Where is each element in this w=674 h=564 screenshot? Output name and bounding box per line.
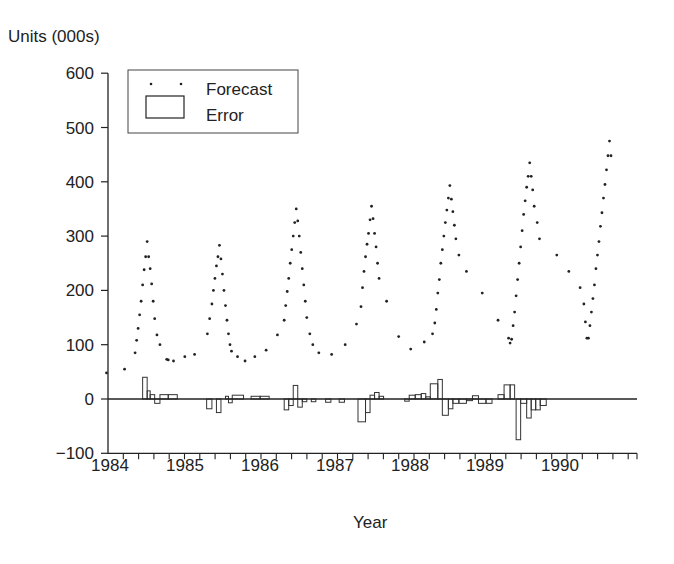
forecast-point <box>373 232 376 235</box>
forecast-point <box>608 140 611 143</box>
forecast-point <box>149 267 152 270</box>
forecast-point <box>330 353 333 356</box>
forecast-point <box>229 343 232 346</box>
forecast-point <box>528 161 531 164</box>
forecast-point <box>290 248 293 251</box>
forecast-point <box>370 205 373 208</box>
forecast-point <box>435 308 438 311</box>
error-bar <box>298 399 303 407</box>
forecast-point <box>436 292 439 295</box>
x-tick-label: 1986 <box>241 456 279 475</box>
forecast-point <box>296 219 299 222</box>
error-bar <box>143 377 148 399</box>
y-tick-label: −100 <box>56 444 94 463</box>
forecast-point <box>226 319 229 322</box>
forecast-point <box>519 246 522 249</box>
forecast-point <box>159 343 162 346</box>
forecast-point <box>167 359 170 362</box>
forecast-point <box>283 319 286 322</box>
forecast-point <box>138 313 141 316</box>
y-tick-label: 500 <box>66 119 94 138</box>
forecast-point <box>445 209 448 212</box>
forecast-point <box>515 294 518 297</box>
forecast-point <box>385 300 388 303</box>
error-bar <box>438 379 443 399</box>
y-tick-label: 0 <box>85 390 94 409</box>
x-tick-label: 1989 <box>466 456 504 475</box>
forecast-point <box>602 197 605 200</box>
forecast-point <box>596 254 599 257</box>
forecast-point <box>589 324 592 327</box>
error-bar <box>216 399 221 413</box>
legend-forecast-label: Forecast <box>206 80 272 99</box>
x-tick-label: 1984 <box>91 456 129 475</box>
forecast-point <box>451 210 454 213</box>
forecast-point <box>143 268 146 271</box>
forecast-point <box>344 343 347 346</box>
forecast-series <box>105 140 612 375</box>
forecast-point <box>295 208 298 211</box>
forecast-point <box>301 267 304 270</box>
forecast-point <box>579 286 582 289</box>
error-bar <box>516 399 521 440</box>
forecast-point <box>447 197 450 200</box>
error-bar <box>521 399 527 403</box>
x-axis: 1984198519861987198819891990 <box>91 453 637 475</box>
forecast-point <box>286 290 289 293</box>
forecast-point <box>527 175 530 178</box>
forecast-point <box>423 341 426 344</box>
error-bar <box>375 392 380 399</box>
forecast-point <box>510 338 513 341</box>
forecast-point <box>172 360 175 363</box>
forecast-point <box>298 235 301 238</box>
error-bar <box>358 399 366 422</box>
forecast-point <box>375 246 378 249</box>
forecast-point <box>587 337 590 340</box>
forecast-point <box>409 348 412 351</box>
forecast-point <box>454 237 457 240</box>
error-bar <box>293 385 298 399</box>
forecast-point <box>153 317 156 320</box>
forecast-point <box>512 324 515 327</box>
forecast-point <box>599 225 602 228</box>
forecast-point <box>441 248 444 251</box>
forecast-point <box>215 265 218 268</box>
error-series <box>143 377 547 439</box>
forecast-point <box>137 327 140 330</box>
error-bar <box>531 399 536 410</box>
y-tick-label: 100 <box>66 336 94 355</box>
forecast-point <box>567 270 570 273</box>
forecast-point <box>442 235 445 238</box>
forecast-point <box>308 332 311 335</box>
forecast-point <box>293 221 296 224</box>
forecast-point <box>530 175 533 178</box>
forecast-point <box>305 316 308 319</box>
forecast-point <box>595 267 598 270</box>
forecast-point <box>152 300 155 303</box>
forecast-point <box>355 323 358 326</box>
forecast-point <box>289 262 292 265</box>
forecast-point <box>217 255 220 258</box>
y-tick-label: 200 <box>66 281 94 300</box>
forecast-point <box>593 284 596 287</box>
forecast-point <box>230 350 233 353</box>
forecast-point <box>555 254 558 257</box>
forecast-point <box>276 334 279 337</box>
error-bar <box>536 399 541 410</box>
forecast-point <box>193 353 196 356</box>
forecast-point <box>146 240 149 243</box>
forecast-point <box>147 255 150 258</box>
forecast-point <box>105 372 108 375</box>
error-bar <box>504 385 510 399</box>
forecast-point <box>366 243 369 246</box>
error-bar <box>289 399 294 406</box>
error-bar <box>540 399 546 406</box>
forecast-point <box>584 320 587 323</box>
forecast-point <box>598 240 601 243</box>
forecast-point <box>367 232 370 235</box>
forecast-point <box>438 278 441 281</box>
forecast-point <box>135 339 138 342</box>
forecast-point <box>497 319 500 322</box>
forecast-point <box>208 317 211 320</box>
forecast-point <box>601 211 604 214</box>
